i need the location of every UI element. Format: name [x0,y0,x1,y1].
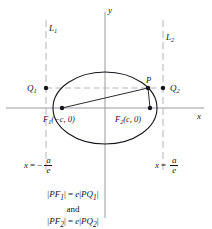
point-label-q2-text: Q [170,83,177,93]
directrix-equation-l1: x = − a e [24,156,53,176]
point-label-f2-sub: 2 [120,119,123,125]
directrix-eq-l1-lhs: x [24,161,28,170]
relation-1-pq: PQ [81,189,93,199]
relations-conjunction: and [16,203,130,215]
relation-1-pf: PF [49,189,60,199]
point-label-q1: Q1 [27,84,37,93]
point-dot-f2 [148,106,152,110]
relation-2-pq: PQ [81,216,93,226]
point-label-f1-coords: (−c, 0) [51,114,75,124]
point-label-f2: F2(c, 0) [115,115,141,124]
directrix-label-l2: L2 [166,33,174,42]
relation-line-1: |PF1| = e|PQ1| [16,188,130,203]
point-dot-f1 [60,106,64,110]
directrix-label-l1: L1 [49,24,57,33]
directrix-eq-l2-denominator: e [170,165,178,175]
relation-2-pf: PF [49,216,60,226]
ellipse-directrix-figure: y x L1 L2 Q1 Q2 P F1(−c, 0) F2(c, 0) x =… [0,0,212,229]
directrix-eq-l1-numerator: a [44,156,53,165]
directrix-equation-l1-expr: x = − a e [24,156,53,176]
directrix-label-l1-sub: 1 [54,27,57,34]
directrix-eq-l1-fraction: a e [44,156,53,176]
directrix-eq-l2-lhs: x [155,161,159,170]
directrix-equation-l2: x = a e [155,156,179,176]
relation-2-equals: = [68,216,73,226]
point-dot-q1 [44,86,48,90]
segment-p-f2 [148,88,150,108]
relation-1-equals: = [68,189,73,199]
directrix-eq-l2-fraction: a e [170,156,179,176]
directrix-eq-l1-minus: − [37,161,42,170]
directrix-equation-l2-expr: x = a e [155,156,179,176]
point-label-q1-sub: 1 [34,87,37,94]
x-axis-label: x [197,112,201,121]
point-label-f1: F1(−c, 0) [43,115,75,124]
point-label-q2-sub: 2 [177,87,180,94]
directrix-eq-l1-sign: = [30,161,35,170]
point-label-f2-coords: (c, 0) [123,114,141,124]
point-label-q2: Q2 [170,84,180,93]
focus-directrix-relations: |PF1| = e|PQ1| and |PF2| = e|PQ2| [16,188,130,229]
directrix-eq-l2-sign: = [161,161,166,170]
y-axis-label: y [108,6,112,15]
directrix-eq-l1-denominator: e [44,165,52,175]
point-dot-q2 [161,86,165,90]
point-dot-p [146,86,150,90]
relation-2-bar-close-2: | [97,216,99,226]
point-label-p: P [146,76,151,85]
point-label-f1-sub: 1 [48,119,51,125]
directrix-label-l2-sub: 2 [171,36,174,43]
relation-1-bar-close-2: | [97,189,99,199]
directrix-eq-l2-numerator: a [170,156,179,165]
point-label-q1-text: Q [27,83,34,93]
relation-2-bar-close: | [64,216,66,226]
relation-line-2: |PF2| = e|PQ2| [16,215,130,229]
relation-1-bar-close: | [64,189,66,199]
